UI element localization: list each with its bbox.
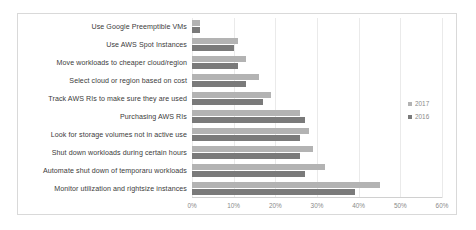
category-label: Use AWS Spot Instances	[18, 41, 192, 50]
category-label: Select cloud or region based on cost	[18, 77, 192, 86]
x-axis-tick-labels: 0%10%20%30%40%50%60%	[192, 202, 442, 214]
bar-2016	[192, 135, 300, 141]
x-tick-label: 60%	[436, 202, 449, 209]
x-tick-label: 0%	[187, 202, 196, 209]
bar-2017	[192, 74, 259, 80]
bar-2017	[192, 146, 313, 152]
bar-row	[192, 38, 442, 52]
bar-row	[192, 74, 442, 88]
bar-2017	[192, 110, 300, 116]
bar-row	[192, 56, 442, 70]
bar-2017	[192, 56, 246, 62]
bar-row	[192, 164, 442, 178]
chart-legend: 20172016	[408, 100, 450, 126]
bar-2017	[192, 182, 380, 188]
plot-area	[192, 18, 442, 198]
bar-rows	[192, 18, 442, 198]
x-tick-label: 10%	[227, 202, 240, 209]
bar-2017	[192, 20, 200, 26]
bar-2016	[192, 153, 300, 159]
category-axis-labels: Use Google Preemptible VMsUse AWS Spot I…	[18, 18, 192, 198]
category-label: Track AWS RIs to make sure they are used	[18, 95, 192, 104]
category-label: Shut down workloads during certain hours	[18, 149, 192, 158]
legend-item[interactable]: 2016	[408, 113, 450, 120]
legend-swatch-icon	[408, 102, 412, 106]
bar-row	[192, 128, 442, 142]
bar-2016	[192, 81, 246, 87]
legend-label: 2017	[415, 100, 429, 107]
x-axis-line	[192, 197, 442, 198]
bar-2016	[192, 171, 305, 177]
x-tick-label: 50%	[394, 202, 407, 209]
category-label: Move workloads to cheaper cloud/region	[18, 59, 192, 68]
bar-row	[192, 146, 442, 160]
bar-2016	[192, 45, 234, 51]
bar-2017	[192, 128, 309, 134]
x-tick-label: 20%	[269, 202, 282, 209]
chart-plot-wrapper: Use Google Preemptible VMsUse AWS Spot I…	[18, 14, 456, 214]
bar-2017	[192, 38, 238, 44]
category-label: Automate shut down of temporaru workload…	[18, 167, 192, 176]
category-label: Use Google Preemptible VMs	[18, 23, 192, 32]
bar-2016	[192, 27, 200, 33]
bar-2016	[192, 99, 263, 105]
bar-2016	[192, 63, 238, 69]
bar-chart-figure: Use Google Preemptible VMsUse AWS Spot I…	[17, 13, 457, 215]
legend-label: 2016	[415, 113, 429, 120]
bar-row	[192, 110, 442, 124]
x-tick-label: 40%	[352, 202, 365, 209]
category-label: Look for storage volumes not in active u…	[18, 131, 192, 140]
category-label: Purchasing AWS RIs	[18, 113, 192, 122]
category-label: Monitor utilization and rightsize instan…	[18, 185, 192, 194]
bar-2017	[192, 164, 325, 170]
bar-2016	[192, 189, 355, 195]
bar-row	[192, 182, 442, 196]
bar-2017	[192, 92, 271, 98]
legend-swatch-icon	[408, 115, 412, 119]
bar-row	[192, 20, 442, 34]
bar-2016	[192, 117, 305, 123]
x-tick-label: 30%	[311, 202, 324, 209]
legend-item[interactable]: 2017	[408, 100, 450, 107]
bar-row	[192, 92, 442, 106]
